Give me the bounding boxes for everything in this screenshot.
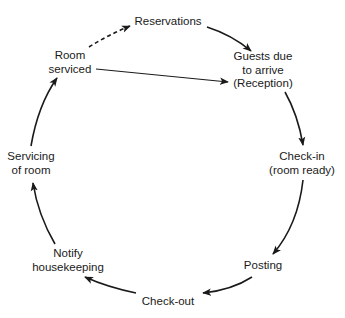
arrow-room-serviced-to-reservations bbox=[89, 26, 130, 47]
node-room-serviced: Room serviced bbox=[49, 49, 92, 76]
node-posting-label: Posting bbox=[244, 259, 282, 273]
node-guests-due-line-2: to arrive bbox=[233, 64, 292, 78]
arrow-room-serviced-to-guests-due bbox=[96, 69, 228, 82]
node-guests-due-line-1: Guests due bbox=[233, 50, 292, 64]
node-check-in-line-2: (room ready) bbox=[269, 164, 335, 178]
arrow-guests-due-to-check-in bbox=[285, 92, 303, 145]
node-room-serviced-line-2: serviced bbox=[49, 63, 92, 77]
arrow-notify-housekeeping-to-servicing bbox=[33, 183, 55, 244]
arrow-check-out-to-notify-housekeeping bbox=[85, 277, 136, 293]
node-guests-due-line-3: (Reception) bbox=[233, 77, 292, 91]
node-room-serviced-line-1: Room bbox=[49, 49, 92, 63]
node-servicing-line-2: of room bbox=[7, 164, 54, 178]
node-check-in-line-1: Check-in bbox=[269, 150, 335, 164]
arrow-posting-to-check-out bbox=[203, 277, 252, 293]
node-reservations-label: Reservations bbox=[134, 15, 201, 29]
node-check-out: Check-out bbox=[142, 295, 194, 309]
node-servicing-of-room: Servicing of room bbox=[7, 150, 54, 177]
node-notify-line-2: housekeeping bbox=[32, 261, 104, 275]
node-check-out-label: Check-out bbox=[142, 295, 194, 309]
room-status-cycle-diagram: Reservations Guests due to arrive (Recep… bbox=[0, 0, 345, 318]
node-reservations: Reservations bbox=[134, 15, 201, 29]
node-notify-housekeeping: Notify housekeeping bbox=[32, 247, 104, 274]
node-notify-line-1: Notify bbox=[32, 247, 104, 261]
arrow-servicing-to-room-serviced bbox=[31, 78, 57, 146]
node-posting: Posting bbox=[244, 259, 282, 273]
arrow-reservations-to-guests-due bbox=[207, 27, 251, 51]
node-servicing-line-1: Servicing bbox=[7, 150, 54, 164]
arrow-check-in-to-posting bbox=[273, 180, 303, 254]
node-check-in: Check-in (room ready) bbox=[269, 150, 335, 177]
node-guests-due: Guests due to arrive (Reception) bbox=[233, 50, 292, 91]
